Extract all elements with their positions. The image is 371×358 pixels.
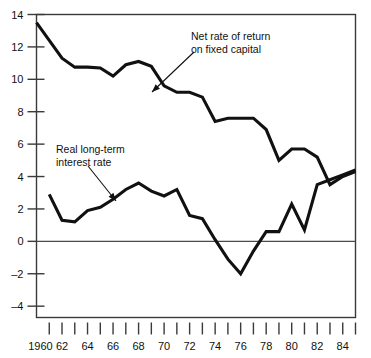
chart-container: 14121086420–2–4 196062646668707274767880… bbox=[0, 0, 371, 358]
x-tick-label: 76 bbox=[235, 340, 247, 352]
x-tick-label: 74 bbox=[209, 340, 221, 352]
y-axis-tick-labels: 14121086420–2–4 bbox=[11, 9, 23, 313]
x-tick-label: 84 bbox=[337, 340, 349, 352]
y-tick-label: 10 bbox=[11, 73, 23, 85]
x-tick-label: 62 bbox=[56, 340, 68, 352]
x-tick-label: 82 bbox=[311, 340, 323, 352]
x-axis-ticks bbox=[49, 323, 355, 335]
real-rate-label: Real long-terminterest rate bbox=[56, 143, 125, 168]
y-tick-label: 2 bbox=[17, 203, 23, 215]
y-tick-label: 8 bbox=[17, 106, 23, 118]
x-tick-label: 78 bbox=[260, 340, 272, 352]
net-rate-label: Net rate of returnon fixed capital bbox=[191, 30, 271, 55]
series-real-interest-rate bbox=[49, 170, 355, 274]
x-tick-label: 1960 bbox=[28, 340, 52, 352]
x-tick-label: 66 bbox=[107, 340, 119, 352]
x-tick-label: 68 bbox=[132, 340, 144, 352]
x-tick-label: 72 bbox=[183, 340, 195, 352]
y-tick-label: 6 bbox=[17, 138, 23, 150]
y-tick-label: –4 bbox=[11, 300, 23, 312]
y-tick-label: 0 bbox=[17, 235, 23, 247]
line-chart: 14121086420–2–4 196062646668707274767880… bbox=[0, 0, 371, 358]
x-axis-tick-labels: 1960626466687072747678808284 bbox=[28, 340, 349, 352]
x-tick-label: 80 bbox=[286, 340, 298, 352]
y-tick-label: –2 bbox=[11, 268, 23, 280]
net-rate-label-arrow bbox=[152, 52, 194, 92]
x-tick-label: 64 bbox=[81, 340, 93, 352]
x-tick-label: 70 bbox=[158, 340, 170, 352]
annotations: Net rate of returnon fixed capitalReal l… bbox=[56, 30, 271, 201]
y-tick-label: 4 bbox=[17, 171, 23, 183]
y-tick-label: 14 bbox=[11, 9, 23, 21]
y-tick-label: 12 bbox=[11, 41, 23, 53]
